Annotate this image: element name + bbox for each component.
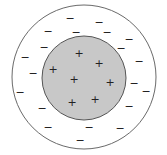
plus-charge-icon: + (74, 47, 83, 60)
plus-charge-icon: + (48, 63, 57, 76)
plus-charge-icon: + (105, 76, 114, 89)
plus-charge-icon: + (69, 73, 78, 86)
charge-distribution-diagram: +++++++ −−−−−−−−−−−−−−−−−−−− (0, 0, 167, 155)
minus-charge-icon: − (43, 121, 52, 134)
minus-charge-icon: − (75, 134, 84, 147)
minus-charge-icon: − (15, 86, 24, 99)
minus-charge-icon: − (102, 26, 111, 39)
plus-charge-icon: + (67, 96, 76, 109)
minus-charge-icon: − (124, 100, 133, 113)
minus-charge-icon: − (141, 85, 150, 98)
plus-charge-icon: + (90, 93, 99, 106)
plus-charge-icon: + (94, 57, 103, 70)
minus-charge-icon: − (39, 41, 48, 54)
minus-charge-icon: − (116, 42, 125, 55)
minus-charge-icon: − (129, 77, 138, 90)
minus-charge-icon: − (43, 25, 52, 38)
minus-charge-icon: − (71, 26, 80, 39)
minus-charge-icon: − (65, 12, 74, 25)
minus-charge-icon: − (84, 121, 93, 134)
minus-charge-icon: − (115, 122, 124, 135)
minus-charge-icon: − (134, 55, 143, 68)
minus-charge-icon: − (37, 102, 46, 115)
minus-charge-icon: − (20, 51, 29, 64)
minus-charge-icon: − (124, 33, 133, 46)
minus-charge-icon: − (28, 67, 37, 80)
